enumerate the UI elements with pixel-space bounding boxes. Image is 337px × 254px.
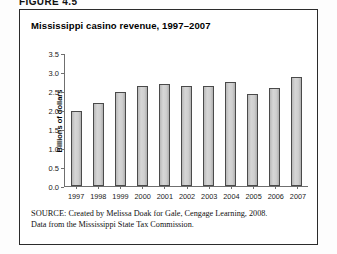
x-tick-mark — [209, 186, 210, 189]
bar-2003 — [203, 86, 214, 186]
bar-2004 — [225, 82, 236, 186]
source-line-2: Data from the Mississippi State Tax Comm… — [31, 220, 194, 229]
bar-slot — [175, 54, 197, 186]
y-tick-mark — [61, 73, 64, 74]
x-tick-mark — [275, 186, 276, 189]
y-tick-mark — [61, 130, 64, 131]
figure-container: FIGURE 4.5 Mississippi casino revenue, 1… — [0, 0, 337, 254]
x-tick-mark — [297, 186, 298, 189]
bar-slot — [153, 54, 175, 186]
bar-slot — [65, 54, 87, 186]
bar-2007 — [291, 77, 302, 186]
figure-frame: Mississippi casino revenue, 1997–2007 Bi… — [19, 9, 318, 245]
x-tick-label: 1998 — [87, 192, 109, 201]
bar-2000 — [137, 86, 148, 186]
bar-slot — [220, 54, 242, 186]
bar-slot — [87, 54, 109, 186]
x-tick-label: 2001 — [154, 192, 176, 201]
x-tick-label: 2002 — [176, 192, 198, 201]
x-tick-mark — [120, 186, 121, 189]
bar-slot — [198, 54, 220, 186]
x-tick-label: 2004 — [220, 192, 242, 201]
x-tick-mark — [253, 186, 254, 189]
bar-1998 — [93, 103, 104, 186]
bar-series — [65, 54, 308, 186]
chart-title: Mississippi casino revenue, 1997–2007 — [31, 20, 211, 31]
x-tick-label: 2007 — [287, 192, 309, 201]
bar-slot — [109, 54, 131, 186]
x-tick-label: 2006 — [265, 192, 287, 201]
source-note: SOURCE: Created by Melissa Doak for Gale… — [31, 208, 307, 231]
bar-slot — [286, 54, 308, 186]
bar-slot — [131, 54, 153, 186]
x-tick-label: 1997 — [65, 192, 87, 201]
bar-2005 — [247, 94, 258, 186]
source-line-1: Created by Melissa Doak for Gale, Cengag… — [66, 209, 267, 218]
bar-1999 — [115, 92, 126, 186]
x-tick-mark — [98, 186, 99, 189]
bar-2001 — [159, 84, 170, 186]
figure-number-label: FIGURE 4.5 — [19, 0, 77, 7]
y-axis-title: Billions of dollars — [55, 89, 64, 152]
x-tick-label: 1999 — [109, 192, 131, 201]
x-tick-label: 2005 — [243, 192, 265, 201]
y-tick-mark — [61, 54, 64, 55]
x-axis-tick-labels: 1997199819992000200120022003200420052006… — [65, 192, 309, 201]
bar-slot — [242, 54, 264, 186]
bar-1997 — [71, 111, 82, 186]
bar-2002 — [181, 86, 192, 186]
y-tick-mark — [61, 92, 64, 93]
y-tick-mark — [61, 149, 64, 150]
plot-area: Billions of dollars 0.00.51.01.52.02.53.… — [64, 54, 308, 187]
x-tick-mark — [142, 186, 143, 189]
y-tick-mark — [61, 187, 64, 188]
x-tick-label: 2000 — [132, 192, 154, 201]
bar-slot — [264, 54, 286, 186]
bar-2006 — [269, 88, 280, 186]
x-tick-mark — [187, 186, 188, 189]
y-tick-mark — [61, 168, 64, 169]
source-prefix: SOURCE: — [31, 209, 66, 218]
x-tick-label: 2003 — [198, 192, 220, 201]
y-tick-mark — [61, 111, 64, 112]
x-tick-mark — [76, 186, 77, 189]
x-tick-mark — [164, 186, 165, 189]
x-tick-mark — [231, 186, 232, 189]
